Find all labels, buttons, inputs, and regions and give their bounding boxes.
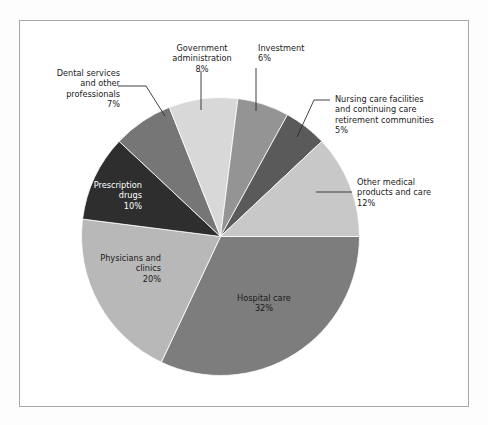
slice-label-nursing-care-facilities: Nursing care facilities and continuing c… [335,94,451,136]
slice-label-investment: Investment 6% [258,43,330,64]
leader-line-dental [118,86,165,116]
pie-chart-figure: Dental services and other professionals … [0,0,488,425]
slice-label-physicians-and-clinics: Physicians and clinics 20% [75,253,161,284]
pie-slices-group [82,98,360,376]
slice-label-dental-services: Dental services and other professionals … [36,68,120,110]
slice-label-prescription-drugs: Prescription drugs 10% [62,180,142,211]
slice-label-hospital-care: Hospital care 32% [222,293,306,314]
slice-label-other-medical-products: Other medical products and care 12% [357,177,461,208]
slice-label-government-administration: Government administration 8% [156,43,248,74]
